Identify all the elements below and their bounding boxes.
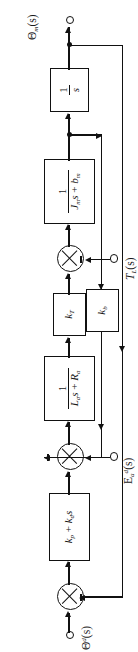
arrowhead-sum2-feedback [44, 455, 50, 461]
block-controller-label: kp + kds [63, 511, 76, 544]
input-terminal-theta-d [66, 631, 74, 639]
block-back-emf-label: kb [96, 306, 109, 314]
diagram-canvas: Θd(s) kp + kds Ead(s) 1 Las [0, 0, 138, 652]
wire-load-torque-to-sum3 [90, 259, 110, 260]
output-terminal-theta-m [66, 16, 74, 24]
block-inertia: 1 Jms + bm [44, 159, 95, 224]
block-armature-label: 1 Las + Ra [57, 368, 82, 410]
wire-kb-riser-to-sum2 [44, 457, 101, 458]
block-torque-constant: kT [53, 293, 86, 336]
wire-position-node-down [68, 45, 123, 46]
label-load-torque: TL(s) [124, 257, 138, 280]
input-terminal-load-torque [110, 254, 118, 262]
load-torque-sum-minus [80, 256, 82, 263]
block-integrator-label: 1 s [58, 84, 81, 96]
block-torque-constant-label: kT [63, 310, 76, 319]
wire-velocity-to-kb [101, 135, 102, 290]
arrowhead-output [65, 27, 71, 33]
block-armature: 1 Las + Ra [44, 356, 95, 421]
block-diagram-figure: Θd(s) kp + kds Ead(s) 1 Las [0, 0, 138, 652]
arrowhead-sum2-in [65, 471, 71, 477]
arrowhead-controller-in [65, 561, 71, 567]
arrowhead-kt-in [65, 337, 71, 343]
arrowhead-armature-in [65, 421, 71, 427]
block-inertia-label: 1 Jms + bm [57, 170, 82, 212]
block-back-emf: kb [86, 289, 119, 332]
block-controller: kp + kds [49, 493, 90, 561]
input-terminal-ea-d [110, 452, 118, 460]
block-integrator: 1 s [50, 68, 89, 112]
label-theta-d: Θd(s) [80, 626, 92, 650]
arrowhead-sum3-in [65, 273, 71, 279]
wire-inertia-to-velocity-node [68, 135, 69, 161]
arrowhead-load-torque [85, 257, 91, 263]
arrowhead-theta-d [65, 611, 71, 617]
label-ea-d: Ead(s) [122, 458, 136, 484]
label-theta-m: Θm(s) [26, 14, 40, 40]
wire-integrator-to-position-node [68, 45, 69, 70]
arrowhead-kb-out [98, 424, 104, 430]
wire-kb-to-riser [101, 332, 102, 458]
arrowhead-inertia-in [65, 224, 71, 230]
arrowhead-outer-feedback [119, 346, 125, 352]
wire-outer-feedback [122, 45, 123, 598]
wire-outer-feedback-riser [81, 596, 122, 597]
arrowhead-integrator-in [65, 113, 71, 119]
arrowhead-sum1-feedback [79, 595, 85, 601]
